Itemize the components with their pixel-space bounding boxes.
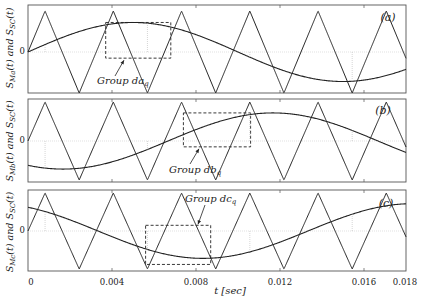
panels	[28, 5, 406, 271]
xtick-0018: 0.018	[393, 277, 417, 287]
group-box-a	[106, 22, 171, 58]
ylabel-a: SMa(t) and SSC(t)	[4, 7, 17, 88]
ytick-zero-b: 0	[20, 135, 25, 145]
xtick-0012: 0.012	[268, 277, 292, 287]
x-axis-label: t [sec]	[214, 285, 246, 296]
ytick-zero-a: 0	[20, 46, 25, 56]
panel-tag-b: (b)	[375, 104, 391, 117]
annotation-label-a: Group daq	[97, 75, 149, 88]
xtick-0004: 0.004	[100, 277, 124, 287]
panel-tag-a: (a)	[380, 11, 395, 24]
panel-a	[28, 5, 406, 93]
annotation-label-c: Group dcq	[185, 193, 237, 206]
ytick-zero-c: 0	[20, 225, 25, 235]
arrowhead-icon	[198, 220, 201, 224]
xtick-0: 0	[28, 277, 33, 287]
three-phase-pwm-figure: 0 0.004 0.008 0.012 0.016 0.018 t [sec] …	[0, 0, 425, 298]
xtick-0016: 0.016	[352, 277, 376, 287]
annotation-group-a: Group daq	[97, 75, 149, 88]
ylabel-c: SMc(t) and SSC(t)	[4, 191, 17, 272]
xtick-0008: 0.008	[184, 277, 208, 287]
panel-tag-c: (c)	[379, 197, 394, 210]
ylabel-b: SMb(t) and SSC(t)	[4, 100, 17, 182]
annotation-group-c: Group dcq	[185, 193, 237, 206]
